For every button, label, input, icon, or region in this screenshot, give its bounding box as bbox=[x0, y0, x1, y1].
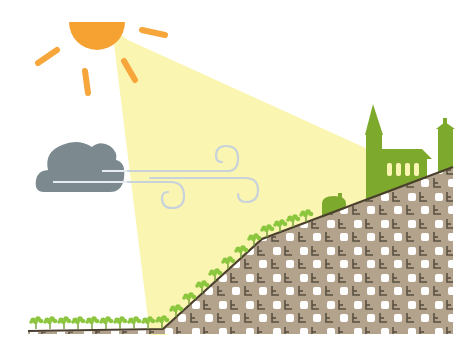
illustration-canvas bbox=[0, 0, 469, 352]
vine-row-flat bbox=[29, 315, 169, 329]
cloud-icon bbox=[36, 142, 128, 192]
vineyard-illustration bbox=[0, 0, 469, 352]
